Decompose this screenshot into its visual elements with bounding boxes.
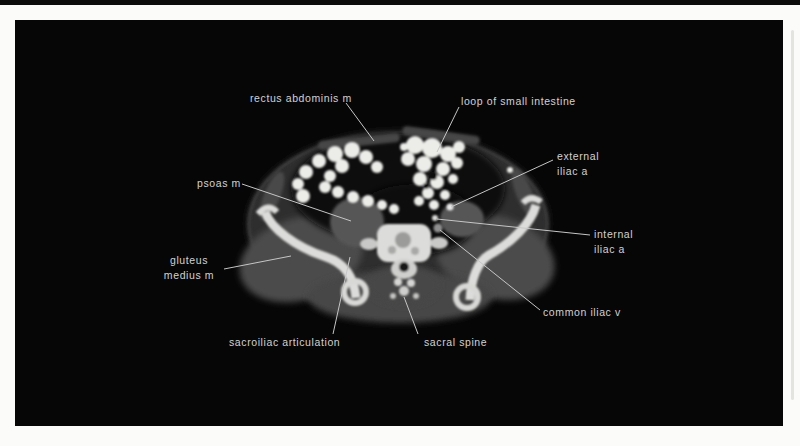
label-external-iliac: external iliac a	[557, 149, 619, 179]
label-psoas: psoas m	[197, 176, 241, 191]
label-internal-iliac: internal iliac a	[594, 227, 656, 257]
label-loop-small-intestine: loop of small intestine	[461, 94, 576, 109]
label-gluteus-medius: gluteus medius m	[157, 253, 221, 283]
label-rectus-abdominis: rectus abdominis m	[250, 91, 352, 106]
book-page: rectus abdominis m loop of small intesti…	[0, 0, 800, 446]
label-sacral-spine: sacral spine	[424, 335, 487, 350]
label-sacroiliac: sacroiliac articulation	[229, 335, 340, 350]
label-common-iliac-vein: common iliac v	[543, 305, 621, 320]
internal-iliac-artery	[432, 215, 438, 221]
external-iliac-artery	[447, 204, 454, 211]
ct-scan-image	[0, 0, 800, 446]
